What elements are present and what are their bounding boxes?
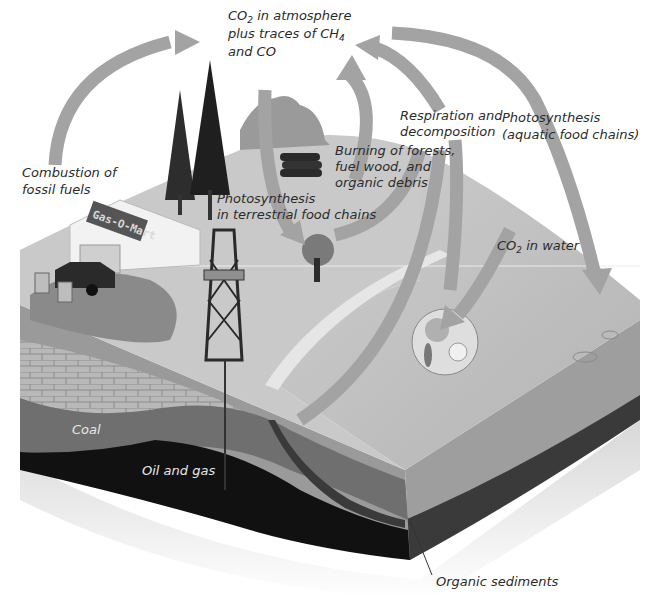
label-coal: Coal — [72, 422, 101, 437]
log-pile — [280, 153, 322, 177]
arrow-respiration — [375, 48, 440, 110]
label-atmosphere-line1: CO2 in atmosphere — [228, 8, 351, 25]
label-photosynthesis-terrestrial-line1: Photosynthesis — [217, 191, 316, 206]
label-respiration-line2: decomposition — [400, 124, 496, 139]
label-combustion-line1: Combustion of — [22, 165, 119, 180]
label-photosynthesis-aquatic-line2: (aquatic food chains) — [502, 127, 639, 142]
label-burning-line2: fuel wood, and — [335, 159, 432, 174]
arrow-respiration-decomposition — [450, 140, 457, 290]
carbon-cycle-diagram: Gas-O-Mart — [0, 0, 669, 611]
label-photosynthesis-terrestrial-line2: in terrestrial food chains — [217, 207, 376, 222]
label-burning-line1: Burning of forests, — [335, 143, 455, 158]
label-photosynthesis-aquatic-line1: Photosynthesis — [502, 110, 601, 125]
label-oil-gas: Oil and gas — [142, 463, 215, 478]
label-atmosphere-line3: and CO — [228, 44, 276, 59]
label-atmosphere-line2: plus traces of CH4 — [227, 26, 345, 43]
label-burning-line3: organic debris — [335, 175, 428, 190]
label-combustion-line2: fossil fuels — [22, 182, 91, 197]
label-respiration-line1: Respiration and — [400, 108, 503, 123]
mountain — [240, 96, 330, 150]
label-organic-sediments: Organic sediments — [436, 574, 559, 589]
arrow-combustion — [55, 42, 170, 165]
label-co2-water: CO2 in water — [497, 238, 581, 255]
